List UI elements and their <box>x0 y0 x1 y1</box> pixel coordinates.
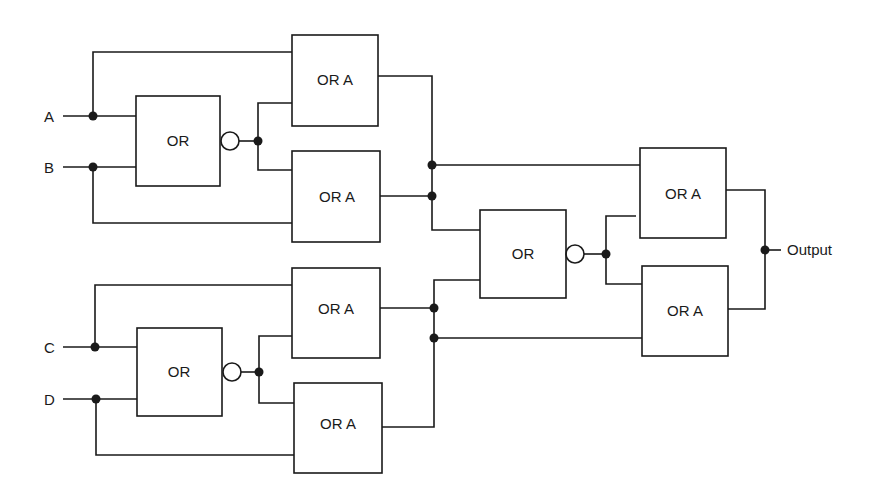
gate-label-or-2: OR <box>168 363 191 380</box>
input-label-a: A <box>44 108 54 125</box>
input-label-b: B <box>44 159 54 176</box>
gate-label-or-a-3: OR A <box>318 300 354 317</box>
inverter-bubble-3 <box>566 245 584 263</box>
input-label-d: D <box>44 391 55 408</box>
wire-a-to-ora1 <box>93 52 292 116</box>
gate-label-or-a-5: OR A <box>665 185 701 202</box>
wire-ora4-out <box>382 280 480 427</box>
wire-final-merge <box>726 190 765 309</box>
gate-label-or-3: OR <box>512 245 535 262</box>
gate-label-or-1: OR <box>167 132 190 149</box>
wire-d-to-ora4 <box>96 399 294 455</box>
inverter-bubble-1 <box>221 132 239 150</box>
inverter-bubble-2 <box>223 363 241 381</box>
gate-label-or-a-1: OR A <box>317 71 353 88</box>
gate-label-or-a-4: OR A <box>320 415 356 432</box>
gate-label-or-a-2: OR A <box>319 188 355 205</box>
junction-dots <box>89 112 770 404</box>
wire-c-to-ora3 <box>95 285 292 347</box>
output-label: Output <box>787 241 833 258</box>
logic-circuit-diagram: A B C D Output OR OR A OR A OR OR A OR A… <box>0 0 888 504</box>
input-label-c: C <box>44 339 55 356</box>
wire-b-to-ora2 <box>93 167 292 223</box>
gate-label-or-a-6: OR A <box>667 302 703 319</box>
wire-ora1-out <box>378 76 640 165</box>
